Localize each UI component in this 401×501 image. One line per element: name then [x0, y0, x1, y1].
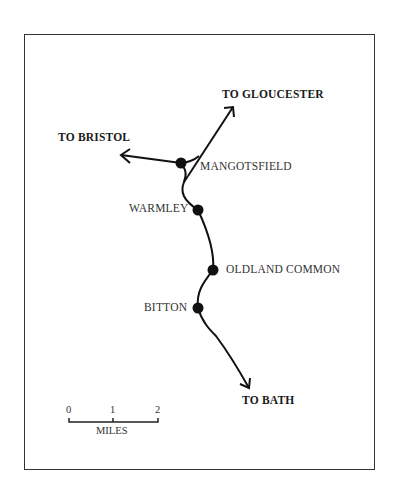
label-station-warmley: WARMLEY — [129, 203, 189, 215]
label-station-bitton: BITTON — [144, 302, 187, 314]
label-station-mangotsfield: MANGOTSFIELD — [200, 161, 292, 173]
station-dot-bitton — [193, 303, 204, 314]
label-to-bath: TO BATH — [242, 395, 294, 407]
station-dot-warmley — [193, 205, 204, 216]
label-to-gloucester: TO GLOUCESTER — [222, 89, 324, 101]
label-to-bristol: TO BRISTOL — [58, 132, 130, 144]
scale-tick-2: 2 — [155, 405, 160, 416]
label-station-oldland-common: OLDLAND COMMON — [226, 264, 340, 276]
scale-tick-1: 1 — [110, 405, 115, 416]
scale-tick-0: 0 — [66, 405, 71, 416]
station-dot-mangotsfield — [176, 158, 187, 169]
station-dot-oldland-common — [208, 265, 219, 276]
scale-unit-label: MILES — [96, 426, 128, 437]
scale-bar — [69, 418, 158, 422]
railway-map — [0, 0, 401, 501]
main-line — [181, 163, 249, 388]
